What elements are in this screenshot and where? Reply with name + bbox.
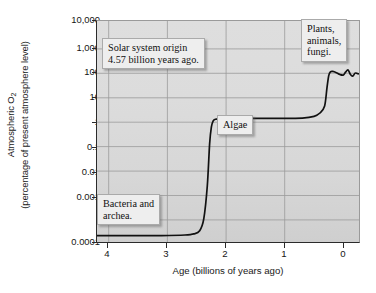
x-tick-label-0: 0 [328, 248, 358, 259]
y-tick-label-1000: 1,000 [40, 43, 100, 53]
x-axis-title: Age (billions of years ago) [96, 265, 360, 276]
y-tick-label-100: 100 [40, 67, 100, 77]
annotation-algae: Algae [217, 115, 253, 135]
annotation-bacteria-archea: Bacteria and archea. [97, 194, 160, 225]
y-tick-label-0.0001: 0.0001 [40, 237, 100, 247]
x-tick-label-3: 3 [151, 248, 181, 259]
annotation-plants-animals-fungi: Plants, animals, fungi. [301, 19, 347, 62]
annotation-solar-system-origin: Solar system origin 4.57 billion years a… [102, 38, 205, 69]
y-tick-label-1: 1 [40, 117, 100, 127]
y-axis-title: Atmospheric O2 (percentage of present at… [0, 0, 36, 250]
x-tick-label-4: 4 [92, 248, 122, 259]
x-tick-label-1: 1 [269, 248, 299, 259]
y-tick-label-10000: 10,000 [40, 15, 100, 25]
y-tick-label-0.001: 0.001 [40, 192, 100, 202]
y-axis-title-line2: (percentage of present atmosphere level) [19, 41, 32, 208]
y-tick-label-0.1: 0.1 [40, 142, 100, 152]
y-axis-title-subscript: 2 [10, 93, 17, 97]
y-tick-label-10: 10 [40, 92, 100, 102]
chart-figure: Atmospheric O2 (percentage of present at… [0, 0, 376, 293]
y-axis-title-line1: Atmospheric O [5, 97, 16, 158]
x-tick-label-2: 2 [210, 248, 240, 259]
y-tick-label-0.01: 0.01 [40, 167, 100, 177]
